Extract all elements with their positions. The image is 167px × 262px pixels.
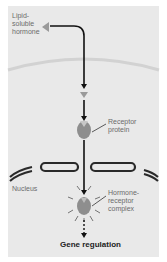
- arrowhead-icon: [81, 190, 87, 195]
- label-hormone-receptor-complex: Hormone- receptor complex: [108, 189, 139, 213]
- label-line: Lipid-: [12, 12, 40, 20]
- transport-arrow: [50, 26, 84, 86]
- hormone-inside-icon: [80, 92, 88, 98]
- arrowhead-icon: [81, 84, 87, 89]
- label-line: receptor: [108, 197, 139, 205]
- label-receptor-protein: Receptor protein: [108, 118, 136, 134]
- diagram-graphics: [0, 0, 167, 262]
- label-line: protein: [108, 126, 136, 134]
- hormone-icon: [42, 22, 49, 32]
- label-lipid-soluble-hormone: Lipid- soluble hormone: [12, 12, 40, 36]
- arrowhead-icon: [81, 116, 87, 121]
- caption-gene-regulation: Gene regulation: [60, 240, 121, 249]
- label-nucleus: Nucleus: [12, 185, 37, 193]
- label-line: complex: [108, 205, 139, 213]
- receptor-pointer: [92, 124, 106, 132]
- arrowhead-icon: [81, 233, 87, 238]
- label-line: Receptor: [108, 118, 136, 126]
- label-line: hormone: [12, 28, 40, 36]
- label-line: Hormone-: [108, 189, 139, 197]
- label-line: soluble: [12, 20, 40, 28]
